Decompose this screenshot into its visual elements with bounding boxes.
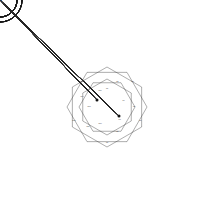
center-label: m3	[131, 81, 133, 82]
center-label: m6	[139, 120, 141, 121]
radial-rosette-diagram: 04c1c2c3c4a105c1c2c3c4a206c1c2c3c4a307c1…	[0, 0, 214, 214]
center-label: m16	[99, 90, 102, 91]
center-label: m13	[87, 106, 90, 107]
hub-lower-right	[118, 115, 121, 118]
hub-upper-left	[96, 99, 99, 102]
center-label: m8	[116, 131, 118, 132]
center-label: m9	[106, 142, 108, 143]
center-label: m10	[99, 123, 102, 124]
figure-background	[0, 0, 214, 214]
center-label: m2	[116, 81, 118, 82]
center-label: m11	[86, 126, 89, 127]
center-label: m5	[133, 106, 135, 107]
figure-root: 04c1c2c3c4a105c1c2c3c4a206c1c2c3c4a307c1…	[0, 0, 214, 214]
center-label: m14	[81, 96, 84, 97]
center-label: m7	[119, 119, 121, 120]
center-label: m15	[80, 81, 83, 82]
center-label: m4	[123, 100, 125, 101]
center-label: m1	[106, 88, 108, 89]
center-label: m12	[72, 120, 75, 121]
